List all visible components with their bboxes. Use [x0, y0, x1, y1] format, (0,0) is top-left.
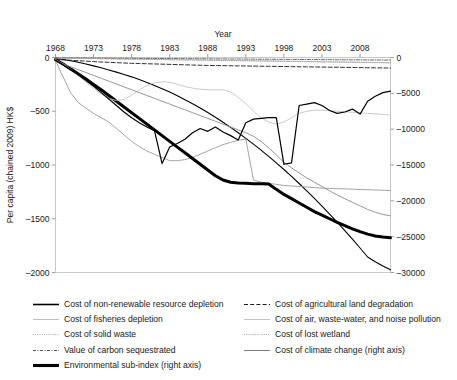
- legend-item[interactable]: Cost of non-renewable resource depletion: [32, 296, 240, 311]
- legend-column-right: Cost of agricultural land degradationCos…: [243, 296, 457, 358]
- legend-item-label: Cost of fisheries depletion: [62, 313, 163, 325]
- legend-item[interactable]: Cost of climate change (right axis): [243, 342, 457, 357]
- y-tick-label-right: 0: [397, 53, 402, 63]
- y-tick-label-right: –10000: [397, 124, 426, 134]
- legend-item[interactable]: Cost of air, waste-water, and noise poll…: [243, 311, 457, 326]
- legend-item-label: Cost of solid waste: [62, 328, 136, 340]
- y-tick-label-left: –2000: [26, 268, 50, 278]
- legend-item[interactable]: Value of carbon sequestrated: [32, 342, 240, 357]
- x-tick-label: 1998: [274, 43, 293, 53]
- x-tick-label: 1988: [198, 43, 217, 53]
- x-tick-label: 2008: [351, 43, 370, 53]
- legend-line-swatch-icon: [32, 328, 62, 340]
- legend-item[interactable]: Environmental sub-index (right axis): [32, 358, 240, 373]
- legend-item[interactable]: Cost of solid waste: [32, 327, 240, 342]
- y-tick-label-right: –20000: [397, 196, 426, 206]
- x-tick-label: 2003: [313, 43, 332, 53]
- chart-page: 196819731978198319881993199820032008Year…: [0, 0, 457, 380]
- series-line: [56, 60, 391, 164]
- series-line: [56, 61, 391, 216]
- legend-line-swatch-icon: [243, 344, 273, 356]
- legend-column-left: Cost of non-renewable resource depletion…: [32, 296, 240, 373]
- legend-line-swatch-icon: [32, 344, 62, 356]
- y-tick-label-right: –30000: [397, 268, 426, 278]
- legend-line-swatch-icon: [32, 298, 62, 310]
- y-tick-label-left: –500: [31, 106, 50, 116]
- legend-item-label: Value of carbon sequestrated: [62, 344, 176, 356]
- legend-line-swatch-icon: [243, 313, 273, 325]
- y-axis-title-left: Per capita (chained 2009) HK$: [5, 107, 15, 224]
- legend-item[interactable]: Cost of fisheries depletion: [32, 311, 240, 326]
- x-axis-title: Year: [214, 29, 231, 39]
- y-tick-label-right: –25000: [397, 232, 426, 242]
- y-tick-label-left: –1500: [26, 214, 50, 224]
- y-tick-label-right: –15000: [397, 160, 426, 170]
- legend-line-swatch-icon: [243, 298, 273, 310]
- legend-item[interactable]: Cost of lost wetland: [243, 327, 457, 342]
- environmental-subindex-chart: 196819731978198319881993199820032008Year…: [0, 0, 457, 292]
- legend-line-swatch-icon: [32, 313, 62, 325]
- chart-legend: Cost of non-renewable resource depletion…: [0, 296, 457, 380]
- legend-line-swatch-icon: [32, 359, 62, 371]
- y-tick-label-left: –1000: [26, 160, 50, 170]
- legend-item-label: Cost of lost wetland: [273, 328, 350, 340]
- x-tick-label: 1983: [160, 43, 179, 53]
- legend-item-label: Cost of agricultural land degradation: [273, 298, 413, 310]
- legend-item-label: Cost of climate change (right axis): [273, 344, 405, 356]
- series-line: [56, 60, 391, 238]
- x-tick-label: 1968: [46, 43, 65, 53]
- chart-canvas: 196819731978198319881993199820032008Year…: [0, 0, 457, 292]
- legend-item-label: Cost of non-renewable resource depletion: [62, 298, 224, 310]
- legend-line-swatch-icon: [243, 328, 273, 340]
- x-tick-label: 1978: [122, 43, 141, 53]
- legend-item-label: Environmental sub-index (right axis): [62, 359, 201, 371]
- y-tick-label-right: –5000: [397, 88, 421, 98]
- x-tick-label: 1993: [236, 43, 255, 53]
- legend-item[interactable]: Cost of agricultural land degradation: [243, 296, 457, 311]
- x-tick-label: 1973: [84, 43, 103, 53]
- y-tick-label-left: 0: [45, 53, 50, 63]
- legend-item-label: Cost of air, waste-water, and noise poll…: [273, 313, 441, 325]
